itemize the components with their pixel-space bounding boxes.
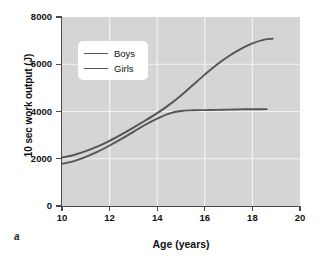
legend-item-girls: Girls <box>84 61 142 76</box>
x-tick-mark <box>299 206 300 211</box>
panel-letter: a <box>14 231 20 242</box>
x-tick-label: 20 <box>285 213 315 223</box>
x-tick-mark <box>204 206 205 211</box>
x-axis-spine <box>61 206 300 207</box>
x-tick-mark <box>252 206 253 211</box>
y-axis-title: 10 sec work output (J) <box>23 26 34 186</box>
x-tick-label: 14 <box>142 213 172 223</box>
y-tick-label: 8000 <box>10 12 52 22</box>
y-tick-mark <box>56 16 62 17</box>
legend-swatch-boys <box>84 53 108 55</box>
figure-panel: 02000400060008000 101214161820 10 sec wo… <box>0 0 320 262</box>
x-axis-title: Age (years) <box>62 238 300 250</box>
x-tick-mark <box>157 206 158 211</box>
legend-label-girls: Girls <box>114 63 134 74</box>
y-tick-mark <box>56 158 62 159</box>
legend-swatch-girls <box>84 68 108 70</box>
chart-legend: Boys Girls <box>78 41 148 80</box>
series-line-girls <box>62 109 267 164</box>
x-tick-label: 18 <box>237 213 267 223</box>
x-tick-mark <box>109 206 110 211</box>
legend-label-boys: Boys <box>114 48 135 59</box>
x-tick-label: 16 <box>190 213 220 223</box>
y-tick-mark <box>56 111 62 112</box>
legend-item-boys: Boys <box>84 46 142 61</box>
x-tick-mark <box>61 206 62 211</box>
y-tick-mark <box>56 64 62 65</box>
x-tick-label: 12 <box>95 213 125 223</box>
y-tick-label: 0 <box>10 201 52 211</box>
x-tick-label: 10 <box>47 213 77 223</box>
